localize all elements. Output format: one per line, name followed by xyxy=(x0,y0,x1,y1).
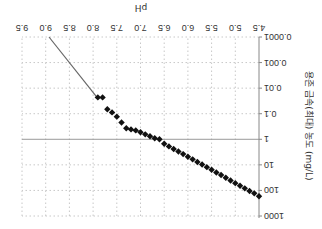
x-tick-label: 9.5 xyxy=(16,23,29,33)
y-tick-label: 100 xyxy=(264,185,279,195)
x-tick-label: 5.5 xyxy=(205,23,218,33)
y-tick-label: 1 xyxy=(264,134,269,144)
data-point-diamond xyxy=(123,125,129,131)
x-tick-label: 8.0 xyxy=(87,23,100,33)
y-tick-label: 0.001 xyxy=(264,58,287,68)
y-tick-label: 0.01 xyxy=(264,83,282,93)
axes xyxy=(259,37,262,218)
gridlines xyxy=(22,37,259,216)
x-axis-tick-labels: 4.55.05.56.06.57.07.58.08.59.09.5 xyxy=(16,23,266,33)
y-tick-label: 0.1 xyxy=(264,109,277,119)
x-tick-label: 6.5 xyxy=(158,23,171,33)
x-tick-label: 5.0 xyxy=(229,23,242,33)
x-axis-title: pH xyxy=(135,3,147,13)
y-axis-title: 용존 금속(최대) 농도 (mg/L) xyxy=(304,71,314,180)
data-point-diamond xyxy=(156,136,162,142)
x-tick-label: 7.0 xyxy=(134,23,147,33)
chart: 4.55.05.56.06.57.07.58.08.59.09.5 100010… xyxy=(0,0,322,229)
data-point-diamond xyxy=(118,119,124,125)
trend-line xyxy=(49,37,98,98)
y-tick-label: 1000 xyxy=(264,211,284,221)
data-point-diamond xyxy=(128,126,134,132)
x-tick-label: 6.0 xyxy=(182,23,195,33)
y-tick-label: 10 xyxy=(264,160,274,170)
chart-canvas: 4.55.05.56.06.57.07.58.08.59.09.5 100010… xyxy=(0,0,322,229)
data-point-diamond xyxy=(114,113,120,119)
x-tick-label: 9.0 xyxy=(39,23,52,33)
y-tick-label: 0.0001 xyxy=(264,32,292,42)
data-point-diamond xyxy=(256,193,262,199)
data-point-diamond xyxy=(104,106,110,112)
data-points xyxy=(95,94,263,199)
y-axis-tick-labels: 10001001010.10.010.0010.0001 xyxy=(264,32,292,221)
x-tick-label: 7.5 xyxy=(111,23,124,33)
extrapolated-line xyxy=(49,37,98,98)
data-point-diamond xyxy=(109,109,115,115)
x-tick-label: 8.5 xyxy=(63,23,76,33)
